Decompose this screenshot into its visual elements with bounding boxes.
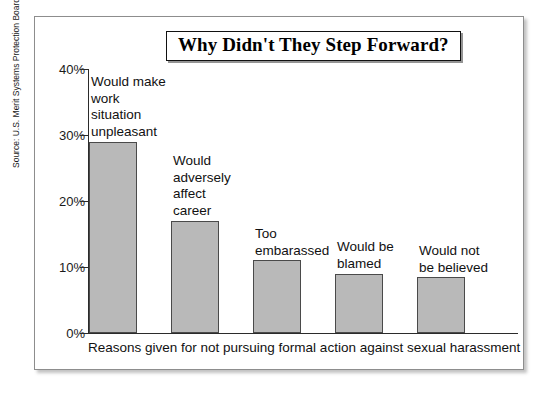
- y-tick-label-0: 0%: [45, 326, 85, 341]
- bar-3: [335, 274, 383, 333]
- x-axis-line: [88, 333, 518, 334]
- bar-label-0: Would make work situation unpleasant: [91, 74, 166, 140]
- bar-1: [171, 221, 219, 333]
- y-tick-mark-2: [80, 201, 89, 202]
- bar-label-4: Would not be believed: [419, 243, 488, 276]
- y-tick-mark-3: [80, 135, 89, 136]
- y-tick-mark-1: [80, 267, 89, 268]
- y-axis-tick-labels: 0% 10% 20% 30% 40%: [41, 17, 85, 371]
- source-note: Source: U.S. Merit Systems Protection Bo…: [11, 0, 21, 168]
- y-tick-label-3: 30%: [45, 128, 85, 143]
- y-tick-mark-4: [80, 69, 89, 70]
- y-tick-label-1: 10%: [45, 260, 85, 275]
- chart-figure-frame: Why Didn't They Step Forward? 0% 10% 20%…: [34, 16, 524, 370]
- bar-4: [417, 277, 465, 333]
- y-tick-label-4: 40%: [45, 62, 85, 77]
- plot-area: 0% 10% 20% 30% 40% Would make work situa…: [35, 17, 525, 371]
- x-axis-label: Reasons given for not pursuing formal ac…: [88, 340, 518, 355]
- bar-0: [89, 142, 137, 333]
- bar-label-3: Would be blamed: [337, 239, 394, 272]
- bar-2: [253, 260, 301, 333]
- y-tick-label-2: 20%: [45, 194, 85, 209]
- bar-label-1: Would adversely affect career: [173, 153, 231, 219]
- bar-label-2: Too embarassed: [255, 226, 329, 259]
